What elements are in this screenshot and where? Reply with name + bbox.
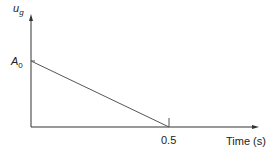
x-axis-label: Time (s)	[226, 136, 266, 147]
y-axis-label: ug	[13, 3, 24, 14]
x-tick-label: 0.5	[161, 135, 176, 146]
ramp-line	[31, 61, 169, 127]
y-intercept-label-subscript: 0	[18, 61, 22, 70]
x-axis-arrow-icon	[252, 125, 259, 129]
y-axis-arrow-icon	[29, 14, 33, 21]
y-intercept-label: A0	[11, 56, 23, 67]
y-axis-label-subscript: g	[19, 8, 23, 17]
